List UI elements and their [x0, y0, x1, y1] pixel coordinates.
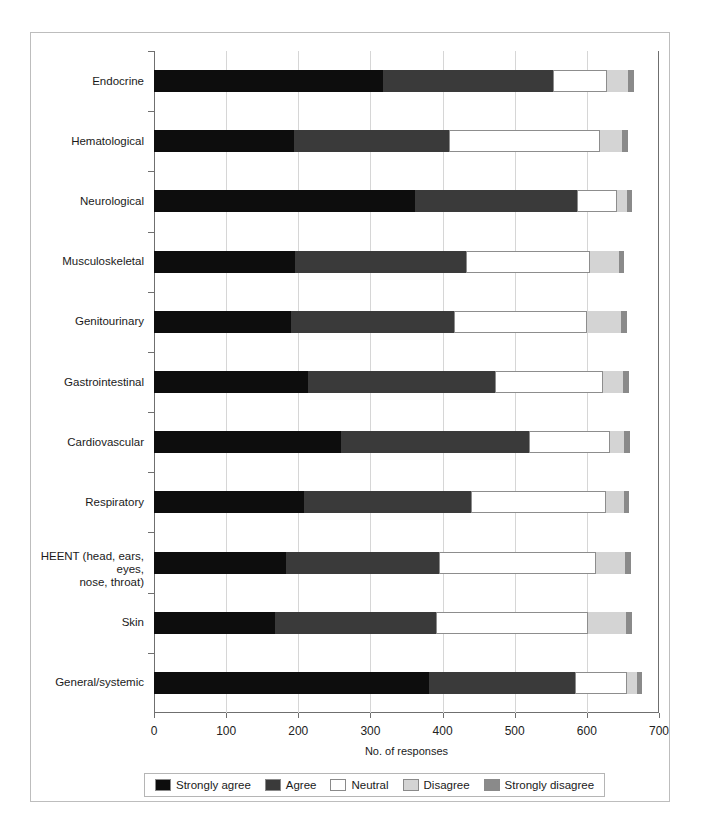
category-label: Endocrine	[92, 75, 144, 88]
bar-segment[interactable]	[439, 552, 596, 574]
category-label: Cardiovascular	[67, 436, 144, 449]
bar-row[interactable]	[154, 672, 659, 694]
bar-segment[interactable]	[304, 491, 471, 513]
bar-segment[interactable]	[436, 612, 588, 634]
x-tick-label: 700	[649, 724, 669, 738]
bar-segment[interactable]	[600, 130, 622, 152]
bar-segment[interactable]	[619, 251, 625, 273]
bar-segment[interactable]	[577, 190, 617, 212]
bar-segment[interactable]	[625, 552, 631, 574]
category-label: Gastrointestinal	[64, 376, 144, 389]
bar-segment[interactable]	[466, 251, 591, 273]
bar-segment[interactable]	[154, 70, 383, 92]
x-tick-label: 100	[216, 724, 236, 738]
bar-segment[interactable]	[154, 130, 294, 152]
legend-item[interactable]: Disagree	[403, 779, 470, 791]
x-tick-label: 300	[360, 724, 380, 738]
bar-segment[interactable]	[154, 672, 429, 694]
bar-row[interactable]	[154, 190, 659, 212]
bar-row[interactable]	[154, 251, 659, 273]
bar-segment[interactable]	[623, 371, 629, 393]
bar-segment[interactable]	[606, 491, 624, 513]
bar-segment[interactable]	[628, 70, 634, 92]
bar-segment[interactable]	[626, 612, 632, 634]
bar-row[interactable]	[154, 612, 659, 634]
bar-segment[interactable]	[154, 552, 286, 574]
bar-segment[interactable]	[621, 311, 627, 333]
legend-label: Disagree	[424, 779, 470, 791]
bar-segment[interactable]	[603, 371, 622, 393]
bar-segment[interactable]	[588, 612, 626, 634]
bar-segment[interactable]	[154, 491, 304, 513]
bar-segment[interactable]	[622, 130, 628, 152]
legend-item[interactable]: Strongly disagree	[484, 779, 595, 791]
legend-label: Strongly agree	[176, 779, 251, 791]
x-tick-mark	[659, 713, 660, 718]
bar-row[interactable]	[154, 70, 659, 92]
bar-segment[interactable]	[275, 612, 436, 634]
bar-segment[interactable]	[383, 70, 553, 92]
category-label: Neurological	[80, 195, 144, 208]
y-tick-mark	[148, 532, 154, 533]
bar-row[interactable]	[154, 130, 659, 152]
bar-row[interactable]	[154, 431, 659, 453]
bar-segment[interactable]	[617, 190, 626, 212]
x-axis-title: No. of responses	[154, 745, 659, 757]
x-tick-label: 400	[433, 724, 453, 738]
bar-segment[interactable]	[471, 491, 606, 513]
bar-segment[interactable]	[286, 552, 439, 574]
bar-segment[interactable]	[154, 251, 295, 273]
bar-segment[interactable]	[553, 70, 607, 92]
bar-segment[interactable]	[429, 672, 575, 694]
bar-segment[interactable]	[294, 130, 449, 152]
bar-segment[interactable]	[454, 311, 587, 333]
bar-segment[interactable]	[627, 672, 636, 694]
chart-figure: 0100200300400500600700 EndocrineHematolo…	[30, 32, 670, 802]
bar-segment[interactable]	[590, 251, 618, 273]
x-tick-label: 200	[288, 724, 308, 738]
bar-row[interactable]	[154, 552, 659, 574]
bar-segment[interactable]	[627, 190, 633, 212]
legend-swatch	[330, 779, 346, 791]
bar-segment[interactable]	[529, 431, 610, 453]
bar-segment[interactable]	[154, 371, 308, 393]
bar-segment[interactable]	[308, 371, 495, 393]
bar-segment[interactable]	[637, 672, 643, 694]
bar-segment[interactable]	[575, 672, 627, 694]
bar-segment[interactable]	[154, 311, 291, 333]
bar-segment[interactable]	[291, 311, 454, 333]
legend-swatch	[403, 779, 419, 791]
legend-label: Agree	[286, 779, 317, 791]
plot-area: 0100200300400500600700	[154, 51, 659, 713]
bar-segment[interactable]	[495, 371, 604, 393]
bar-segment[interactable]	[624, 431, 630, 453]
y-tick-mark	[148, 593, 154, 594]
x-tick-mark	[298, 713, 299, 718]
bar-row[interactable]	[154, 491, 659, 513]
y-tick-mark	[148, 352, 154, 353]
bar-segment[interactable]	[154, 190, 415, 212]
legend-item[interactable]: Strongly agree	[155, 779, 251, 791]
bar-segment[interactable]	[587, 311, 621, 333]
bar-segment[interactable]	[596, 552, 626, 574]
y-tick-mark	[148, 653, 154, 654]
bar-row[interactable]	[154, 371, 659, 393]
legend-item[interactable]: Agree	[265, 779, 317, 791]
bar-segment[interactable]	[154, 612, 275, 634]
x-tick-mark	[443, 713, 444, 718]
y-tick-mark	[148, 51, 154, 52]
bar-segment[interactable]	[415, 190, 577, 212]
y-tick-mark	[148, 232, 154, 233]
bar-segment[interactable]	[154, 431, 341, 453]
bar-segment[interactable]	[295, 251, 466, 273]
y-tick-mark	[148, 292, 154, 293]
bar-segment[interactable]	[607, 70, 628, 92]
legend-swatch	[265, 779, 281, 791]
legend-item[interactable]: Neutral	[330, 779, 388, 791]
bar-segment[interactable]	[449, 130, 600, 152]
bar-segment[interactable]	[341, 431, 529, 453]
bar-segment[interactable]	[610, 431, 624, 453]
category-label: Respiratory	[85, 496, 144, 509]
bar-row[interactable]	[154, 311, 659, 333]
bar-segment[interactable]	[624, 491, 630, 513]
